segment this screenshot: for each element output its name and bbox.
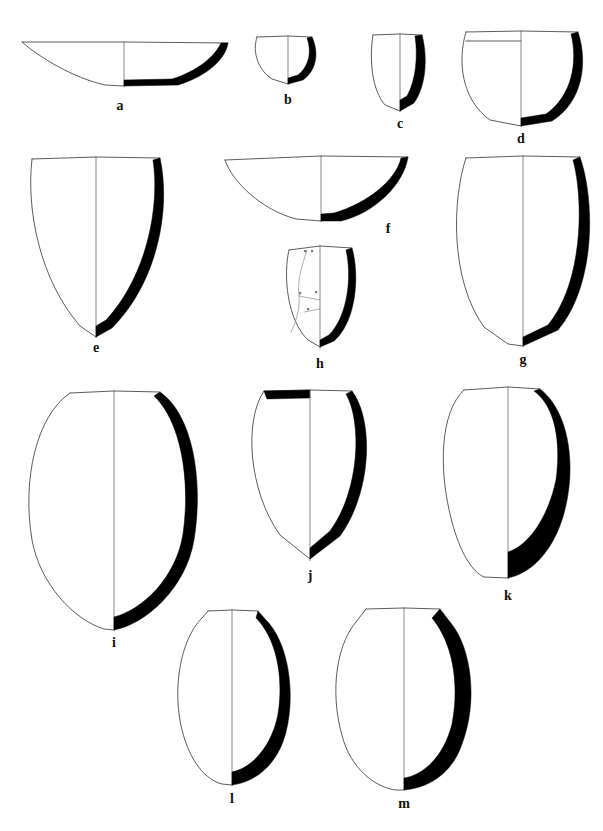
vessel-label-e: e xyxy=(93,340,99,355)
vessel-label-k: k xyxy=(504,588,512,603)
vessel-label-a: a xyxy=(117,98,124,113)
pottery-plate-figure: abcdefghijklm xyxy=(0,0,603,831)
vessel-label-j: j xyxy=(307,568,313,583)
vessel-label-i: i xyxy=(112,635,116,650)
vessel-label-h: h xyxy=(316,356,324,371)
vessel-j-rim-band-painted xyxy=(264,390,310,399)
vessel-h-crack-tick-3 xyxy=(315,291,317,293)
vessel-h-crack-tick-2 xyxy=(299,292,301,294)
vessel-label-l: l xyxy=(230,791,234,806)
vessel-label-d: d xyxy=(517,131,525,146)
vessel-label-b: b xyxy=(284,92,292,107)
vessel-label-c: c xyxy=(397,116,403,131)
vessel-h-crack-tick-0 xyxy=(304,250,306,252)
vessel-label-g: g xyxy=(520,352,527,367)
vessel-label-f: f xyxy=(386,221,391,236)
vessel-h-crack-tick-4 xyxy=(307,308,309,310)
vessel-profile-drawing-canvas: abcdefghijklm xyxy=(0,0,603,831)
vessel-label-m: m xyxy=(398,796,410,811)
vessel-h-crack-tick-1 xyxy=(311,250,313,252)
